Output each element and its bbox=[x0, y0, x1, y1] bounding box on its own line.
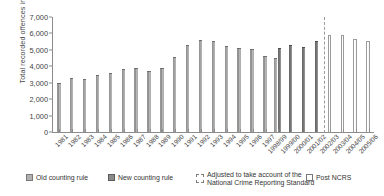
bar-new-1999-00 bbox=[289, 45, 292, 132]
x-axis-tick-label: 1983 bbox=[80, 133, 95, 148]
x-axis-tick-mark bbox=[175, 129, 176, 132]
bar-old-1984 bbox=[96, 75, 99, 132]
legend-item-dashed[interactable]: Adjusted to take account of theNational … bbox=[196, 171, 314, 186]
x-axis-tick-mark bbox=[188, 129, 189, 132]
x-axis-tick-mark bbox=[150, 129, 151, 132]
bar-old-1987 bbox=[134, 68, 137, 132]
legend-item-old[interactable]: Old counting rule bbox=[26, 174, 88, 181]
y-axis-tick-mark bbox=[49, 17, 52, 18]
x-axis-tick-label: 1995 bbox=[234, 133, 249, 148]
chart-legend: Old counting ruleNew counting ruleAdjust… bbox=[0, 170, 384, 192]
legend-label: Adjusted to take account of theNational … bbox=[207, 171, 314, 186]
bar-old-1985 bbox=[109, 73, 112, 132]
x-axis-tick-mark bbox=[240, 129, 241, 132]
x-axis-tick-mark bbox=[214, 129, 215, 132]
bar-old-1986 bbox=[122, 69, 125, 132]
bar-old-1981 bbox=[57, 83, 60, 132]
bar-old-1983 bbox=[83, 79, 86, 132]
x-axis-tick-label: 1985 bbox=[106, 133, 121, 148]
bar-old-1994 bbox=[225, 46, 228, 132]
y-axis-tick-mark bbox=[49, 33, 52, 34]
x-axis-tick-mark bbox=[227, 129, 228, 132]
legend-item-new[interactable]: New counting rule bbox=[108, 174, 173, 181]
bar-old-1991 bbox=[186, 45, 189, 132]
x-axis-tick-label: 1988 bbox=[144, 133, 159, 148]
x-axis-tick-label: 1986 bbox=[118, 133, 133, 148]
bar-new-1998-99 bbox=[278, 48, 281, 132]
x-axis-tick-mark bbox=[304, 129, 305, 132]
x-axis-tick-mark bbox=[278, 129, 279, 132]
bar-old-1988 bbox=[147, 71, 150, 132]
x-axis-tick-mark bbox=[343, 129, 344, 132]
x-axis-tick-label: 1981 bbox=[54, 133, 69, 148]
x-axis-tick-mark bbox=[253, 129, 254, 132]
bar-old-1997 bbox=[263, 56, 266, 132]
legend-swatch-dashed-icon bbox=[196, 174, 204, 183]
legend-label-line-1: Adjusted to take account of the bbox=[207, 171, 302, 178]
legend-label: Old counting rule bbox=[36, 174, 88, 181]
x-axis-tick-mark bbox=[330, 129, 331, 132]
bar-old-1996 bbox=[250, 49, 253, 132]
x-axis-tick-label: 1992 bbox=[196, 133, 211, 148]
x-axis-tick-mark bbox=[201, 129, 202, 132]
x-axis-tick-mark bbox=[266, 129, 267, 132]
x-axis-tick-mark bbox=[124, 129, 125, 132]
bar-post-ncrs-2005-06 bbox=[366, 41, 369, 132]
x-axis-tick-mark bbox=[162, 129, 163, 132]
bar-post-ncrs-2003-04 bbox=[341, 35, 344, 133]
x-axis-tick-mark bbox=[356, 129, 357, 132]
legend-label-line-2: National Crime Reporting Standard bbox=[207, 179, 314, 186]
bar-old-1993 bbox=[212, 41, 215, 132]
bar-old-1989 bbox=[160, 68, 163, 132]
x-axis-tick-label: 1989 bbox=[157, 133, 172, 148]
bar-old-1992 bbox=[199, 40, 202, 132]
legend-item-post[interactable]: Post NCRS bbox=[306, 174, 351, 181]
legend-label: Post NCRS bbox=[316, 174, 351, 181]
x-axis-tick-label: 1990 bbox=[170, 133, 185, 148]
legend-label: New counting rule bbox=[118, 174, 173, 181]
bar-old-1990 bbox=[173, 57, 176, 132]
legend-swatch-new-icon bbox=[108, 174, 115, 181]
x-axis-tick-mark bbox=[98, 129, 99, 132]
bar-group bbox=[53, 17, 374, 132]
bar-old-1995 bbox=[237, 48, 240, 132]
y-axis-tick-mark bbox=[49, 99, 52, 100]
x-axis-tick-mark bbox=[72, 129, 73, 132]
legend-swatch-post-icon bbox=[306, 174, 313, 181]
x-axis-tick-label: 1984 bbox=[93, 133, 108, 148]
bar-new-2000-01 bbox=[302, 47, 305, 132]
x-axis-tick-label: 1996 bbox=[247, 133, 262, 148]
chart-figure: Total recorded offences in 000s 01,0002,… bbox=[0, 0, 384, 196]
y-axis-title: Total recorded offences in 000s bbox=[19, 0, 27, 97]
bar-post-ncrs-2002-03 bbox=[328, 35, 331, 132]
bar-old-1982 bbox=[70, 78, 73, 132]
legend-swatch-old-icon bbox=[26, 174, 33, 181]
x-axis-tick-label: 1994 bbox=[222, 133, 237, 148]
x-axis-tick-mark bbox=[317, 129, 318, 132]
x-axis-tick-mark bbox=[59, 129, 60, 132]
y-axis-tick-mark bbox=[49, 66, 52, 67]
x-axis-tick-label: 1993 bbox=[209, 133, 224, 148]
x-axis-tick-mark bbox=[137, 129, 138, 132]
bar-new-2001-02 bbox=[315, 41, 318, 132]
x-axis-tick-mark bbox=[369, 129, 370, 132]
x-axis-ticks: 1981198219831984198519861987198819891990… bbox=[52, 133, 384, 163]
y-axis-tick-mark bbox=[49, 82, 52, 83]
x-axis-tick-mark bbox=[291, 129, 292, 132]
y-axis-tick-mark bbox=[49, 115, 52, 116]
x-axis-tick-label: 1991 bbox=[183, 133, 198, 148]
x-axis-tick-mark bbox=[111, 129, 112, 132]
ncrs-adjustment-line bbox=[324, 17, 325, 133]
y-axis-tick-mark bbox=[49, 49, 52, 50]
x-axis-tick-label: 1987 bbox=[131, 133, 146, 148]
bar-post-ncrs-2004-05 bbox=[353, 39, 356, 132]
x-axis-tick-mark bbox=[85, 129, 86, 132]
plot-area: 01,0002,0003,0004,0005,0006,0007,000 bbox=[52, 17, 374, 133]
x-axis-tick-label: 1982 bbox=[67, 133, 82, 148]
